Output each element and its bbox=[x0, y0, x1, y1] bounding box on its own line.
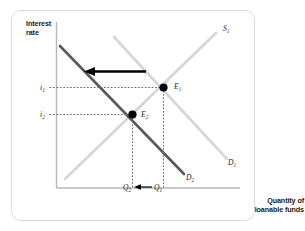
y-tick-label-i1: i1 bbox=[40, 83, 45, 92]
x-axis-title-line2: loanable funds bbox=[255, 205, 266, 214]
equilibrium-point-e1 bbox=[159, 83, 167, 91]
y-axis-title-line1: Interest bbox=[26, 19, 51, 28]
equilibrium-e1-label: E1 bbox=[174, 82, 181, 91]
demand-curve-d1 bbox=[114, 37, 227, 159]
demand-curve-d2 bbox=[60, 46, 184, 174]
y-axis-title: Interest rate bbox=[26, 19, 51, 37]
quantity-shift-arrow bbox=[134, 184, 152, 190]
supply-curve-label-sub: 1 bbox=[227, 28, 230, 34]
equilibrium-e1-label-sub: 1 bbox=[179, 86, 182, 92]
demand-curve-d2-label-sub: 2 bbox=[191, 177, 194, 183]
equilibrium-point-e2 bbox=[128, 110, 136, 118]
supply-curve-label: S1 bbox=[223, 24, 229, 33]
x-axis-title-line1: Quantity of bbox=[255, 196, 266, 205]
y-axis-title-line2: rate bbox=[26, 28, 51, 37]
equilibrium-e2-label-sub: 2 bbox=[146, 114, 149, 120]
supply-curve-s1 bbox=[65, 33, 216, 179]
demand-curve-d1-label-sub: 1 bbox=[233, 162, 236, 168]
equilibrium-e2-label: E2 bbox=[141, 110, 148, 119]
x-axis-title: Quantity of loanable funds bbox=[255, 196, 266, 214]
demand-curve-d2-label: D2 bbox=[186, 173, 194, 182]
equilibrium-e2-label-text: E bbox=[141, 110, 146, 119]
equilibrium-e1-label-text: E bbox=[174, 82, 179, 91]
demand-curve-d1-label: D1 bbox=[228, 158, 236, 167]
x-tick-label-q1-sub: 1 bbox=[159, 187, 162, 193]
demand-shift-arrow bbox=[84, 67, 146, 76]
x-tick-label-q1: Q1 bbox=[154, 183, 162, 192]
y-tick-label-i2: i2 bbox=[40, 110, 45, 119]
x-tick-label-q2: Q2 bbox=[123, 183, 131, 192]
x-tick-label-q2-sub: 2 bbox=[128, 187, 131, 193]
y-tick-label-i2-sub: 2 bbox=[42, 114, 45, 120]
y-tick-label-i1-sub: 1 bbox=[42, 87, 45, 93]
